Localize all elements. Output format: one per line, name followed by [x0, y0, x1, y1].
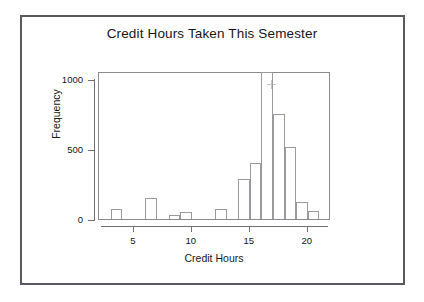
- histogram-bar: [180, 212, 192, 219]
- plot-area: [98, 72, 330, 220]
- x-tick-mark: [249, 226, 250, 232]
- histogram-bar: [238, 179, 250, 219]
- x-tick-label: 20: [292, 235, 322, 246]
- histogram-bar: [215, 209, 227, 219]
- y-axis-label: Frequency: [50, 74, 62, 154]
- y-tick-mark: [88, 220, 95, 221]
- x-tick-label: 5: [118, 235, 148, 246]
- histogram-bar: [308, 211, 320, 219]
- histogram-figure: Credit Hours Taken This Semester 0500100…: [0, 0, 424, 302]
- stray-plus-marker: [267, 80, 276, 89]
- y-tick-mark: [88, 80, 95, 81]
- histogram-bar: [285, 147, 297, 219]
- histogram-bar: [111, 209, 123, 219]
- x-tick-mark: [307, 226, 308, 232]
- histogram-bar: [169, 215, 181, 219]
- x-axis-label: Credit Hours: [98, 252, 330, 264]
- chart-title: Credit Hours Taken This Semester: [0, 26, 424, 41]
- histogram-bar: [261, 72, 273, 219]
- x-tick-label: 15: [234, 235, 264, 246]
- histogram-bars: [99, 73, 329, 219]
- histogram-bar: [145, 198, 157, 219]
- histogram-bar: [273, 114, 285, 219]
- x-tick-label: 10: [176, 235, 206, 246]
- histogram-bar: [250, 163, 262, 219]
- x-tick-mark: [191, 226, 192, 232]
- y-tick-mark: [88, 150, 95, 151]
- x-axis-line: [101, 226, 328, 227]
- histogram-bar: [296, 202, 308, 219]
- y-tick-label: 0: [23, 214, 83, 225]
- x-tick-mark: [133, 226, 134, 232]
